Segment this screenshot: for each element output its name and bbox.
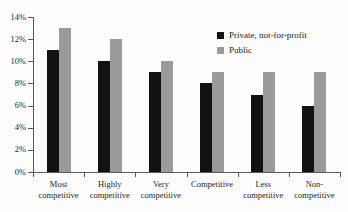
y-axis-tick (28, 128, 33, 129)
y-axis-tick-label: 0% (0, 168, 26, 177)
x-axis-category-label: Non-competitive (282, 179, 346, 200)
y-axis-tick (28, 39, 33, 40)
x-axis-tick (289, 172, 290, 177)
y-axis-tick-label: 8% (0, 79, 26, 88)
category-label-line: competitive (129, 190, 193, 201)
y-axis-tick-label: 14% (0, 13, 26, 22)
x-axis-tick (135, 172, 136, 177)
bar-public-1 (59, 28, 71, 172)
legend-item-private: Private, not-for-profit (217, 29, 307, 42)
x-axis-tick (33, 172, 34, 177)
y-axis-tick (28, 106, 33, 107)
x-axis-tick (84, 172, 85, 177)
bar-public-5 (263, 72, 275, 172)
y-axis-tick (28, 61, 33, 62)
bar-chart: 0%2%4%6%8%10%12%14% MostcompetitiveHighl… (0, 0, 348, 212)
y-axis-tick-label: 6% (0, 101, 26, 110)
legend-swatch-icon (217, 47, 224, 54)
bar-public-4 (212, 72, 224, 172)
bar-private-4 (200, 83, 212, 172)
bar-public-6 (314, 72, 326, 172)
bar-private-1 (47, 50, 59, 172)
bar-private-2 (98, 61, 110, 172)
bar-private-3 (149, 72, 161, 172)
legend-label: Private, not-for-profit (229, 31, 307, 40)
y-axis-tick (28, 150, 33, 151)
y-axis-tick (28, 17, 33, 18)
category-label-line: Non- (282, 179, 346, 190)
y-axis-tick-label: 10% (0, 57, 26, 66)
bar-private-6 (302, 106, 314, 172)
y-axis-tick-label: 4% (0, 123, 26, 132)
bar-public-3 (161, 61, 173, 172)
x-axis-tick (238, 172, 239, 177)
legend-label: Public (229, 46, 252, 55)
legend-item-public: Public (217, 44, 307, 57)
x-axis-tick (187, 172, 188, 177)
legend-swatch-icon (217, 32, 224, 39)
y-axis-tick-label: 2% (0, 145, 26, 154)
category-label-line: competitive (282, 190, 346, 201)
bar-public-2 (110, 39, 122, 172)
bar-private-5 (251, 95, 263, 173)
y-axis-line (33, 17, 34, 173)
y-axis-tick (28, 83, 33, 84)
x-axis-tick (340, 172, 341, 177)
y-axis-tick-label: 12% (0, 35, 26, 44)
chart-legend: Private, not-for-profitPublic (217, 29, 307, 59)
